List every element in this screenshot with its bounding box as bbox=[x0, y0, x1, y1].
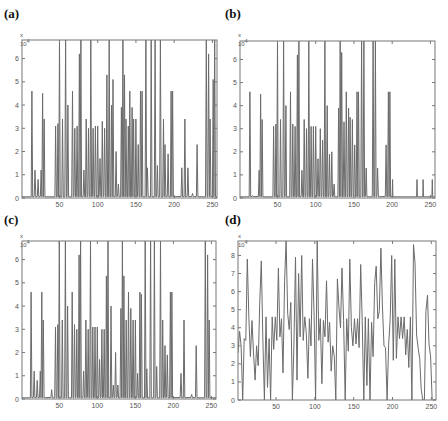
y-tick-label: 7 bbox=[231, 270, 235, 277]
y-tick-label: 1 bbox=[231, 378, 235, 385]
y-tick-label: 5 bbox=[231, 306, 235, 313]
y-tick-label: 3 bbox=[231, 342, 235, 349]
y-tick-label: 8 bbox=[231, 252, 235, 259]
y-tick-label: 0 bbox=[231, 397, 235, 404]
x-tick-label: 100 bbox=[309, 403, 321, 410]
x-tick-label: 200 bbox=[387, 403, 399, 410]
panel-d-plot: 01234567850100150200250 bbox=[0, 0, 448, 421]
y-tick-label: 6 bbox=[231, 288, 235, 295]
y-tick-label: 4 bbox=[231, 324, 235, 331]
x-tick-label: 50 bbox=[272, 403, 280, 410]
y-tick-label: 2 bbox=[231, 360, 235, 367]
x-tick-label: 150 bbox=[348, 403, 360, 410]
data-series-line bbox=[238, 241, 436, 400]
x-tick-label: 250 bbox=[425, 403, 437, 410]
